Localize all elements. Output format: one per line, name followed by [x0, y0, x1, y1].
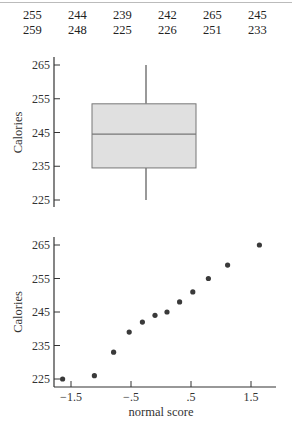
data-point: [111, 350, 116, 355]
data-point: [164, 309, 169, 314]
y-tick-label: 235: [32, 339, 50, 353]
x-axis-label: normal score: [129, 405, 194, 419]
page-top-rule: [0, 2, 292, 3]
x-tick-label: .5: [187, 390, 196, 404]
data-point: [152, 313, 157, 318]
data-point: [177, 299, 182, 304]
data-point: [225, 263, 230, 268]
y-tick-label: 265: [32, 58, 50, 72]
boxplot-chart: 225235245255265Calories: [0, 55, 292, 215]
data-point: [206, 276, 211, 281]
x-tick-label: −.5: [123, 390, 139, 404]
y-tick-label: 225: [32, 193, 50, 207]
data-point: [127, 330, 132, 335]
y-axis-label: Calories: [11, 112, 25, 154]
data-table-row: 259248225226251233: [18, 23, 288, 38]
data-table: 255244239242265245259248225226251233: [18, 8, 288, 38]
normal-probability-plot: 225235245255265−1.5−.5.51.5Caloriesnorma…: [0, 225, 292, 429]
data-table-cell: 244: [63, 8, 108, 23]
y-tick-label: 235: [32, 159, 50, 173]
box-iqr: [92, 104, 196, 168]
data-table-cell: 226: [153, 23, 198, 38]
data-table-cell: 259: [18, 23, 63, 38]
data-point: [190, 289, 195, 294]
data-point: [257, 242, 262, 247]
data-table-cell: 239: [108, 8, 153, 23]
data-table-cell: 248: [63, 23, 108, 38]
data-table-cell: 245: [243, 8, 288, 23]
data-point: [60, 376, 65, 381]
data-point: [140, 319, 145, 324]
y-tick-label: 245: [32, 305, 50, 319]
y-tick-label: 225: [32, 372, 50, 386]
x-tick-label: −1.5: [60, 390, 82, 404]
data-table-cell: 255: [18, 8, 63, 23]
y-tick-label: 255: [32, 272, 50, 286]
data-table-cell: 242: [153, 8, 198, 23]
data-point: [92, 373, 97, 378]
y-tick-label: 255: [32, 92, 50, 106]
data-table-cell: 251: [198, 23, 243, 38]
y-tick-label: 265: [32, 238, 50, 252]
x-tick-label: 1.5: [244, 390, 259, 404]
y-tick-label: 245: [32, 126, 50, 140]
y-axis-label: Calories: [11, 291, 25, 333]
data-table-cell: 233: [243, 23, 288, 38]
data-table-cell: 265: [198, 8, 243, 23]
data-table-row: 255244239242265245: [18, 8, 288, 23]
data-table-cell: 225: [108, 23, 153, 38]
